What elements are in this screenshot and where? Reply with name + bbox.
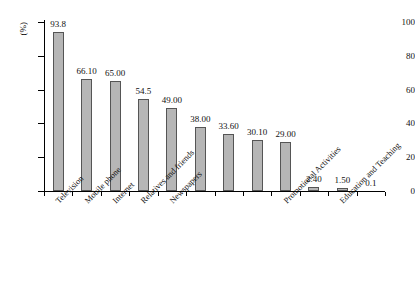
x-axis-tick [158, 192, 159, 196]
x-axis-tick [328, 192, 329, 196]
bar-value-label: 54.5 [123, 87, 163, 96]
bar-value-label: 65.00 [95, 69, 135, 78]
y-axis-tick [38, 123, 44, 124]
y-axis-tick-label: 60 [381, 86, 415, 95]
x-axis-tick [215, 192, 216, 196]
x-axis-tick [44, 192, 45, 196]
bar [308, 187, 319, 191]
bar [252, 140, 263, 191]
y-axis-tick-label: 0 [381, 187, 415, 196]
bar [138, 99, 149, 191]
y-axis-title: (%) [18, 22, 28, 36]
bar-value-label: 29.00 [266, 130, 306, 139]
y-axis-tick-label: 100 [381, 18, 415, 27]
bar [280, 142, 291, 191]
bar-value-label: 93.8 [38, 20, 78, 29]
y-axis-tick-label: 80 [381, 52, 415, 61]
y-axis-tick-label: 40 [381, 119, 415, 128]
x-axis-tick [243, 192, 244, 196]
bar [223, 134, 234, 191]
x-axis-tick [385, 192, 386, 196]
y-axis-tick [38, 90, 44, 91]
bar [81, 79, 92, 191]
bar-value-label: 49.00 [152, 96, 192, 105]
x-axis-tick [271, 192, 272, 196]
bar [53, 32, 64, 191]
x-axis-tick [357, 192, 358, 196]
y-axis-line [44, 20, 45, 192]
y-axis-tick [38, 56, 44, 57]
bar-chart: (%) 020406080100 93.866.1065.0054.549.00… [0, 0, 415, 282]
y-axis-tick [38, 157, 44, 158]
